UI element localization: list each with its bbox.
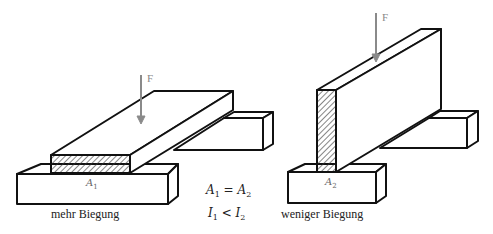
inertia-inequality: I1 < I2 — [208, 206, 245, 222]
left-force-label: F — [147, 72, 153, 84]
right-force-arrow — [372, 13, 380, 62]
left-caption: mehr Biegung — [51, 207, 119, 222]
right-setup — [288, 13, 478, 203]
right-beam — [317, 29, 441, 172]
area-equality: A1 = A2 — [206, 183, 251, 199]
right-area-label: A2 — [325, 176, 337, 190]
right-caption: weniger Biegung — [281, 207, 363, 222]
right-force-label: F — [382, 11, 388, 23]
left-area-label: A1 — [86, 177, 98, 191]
